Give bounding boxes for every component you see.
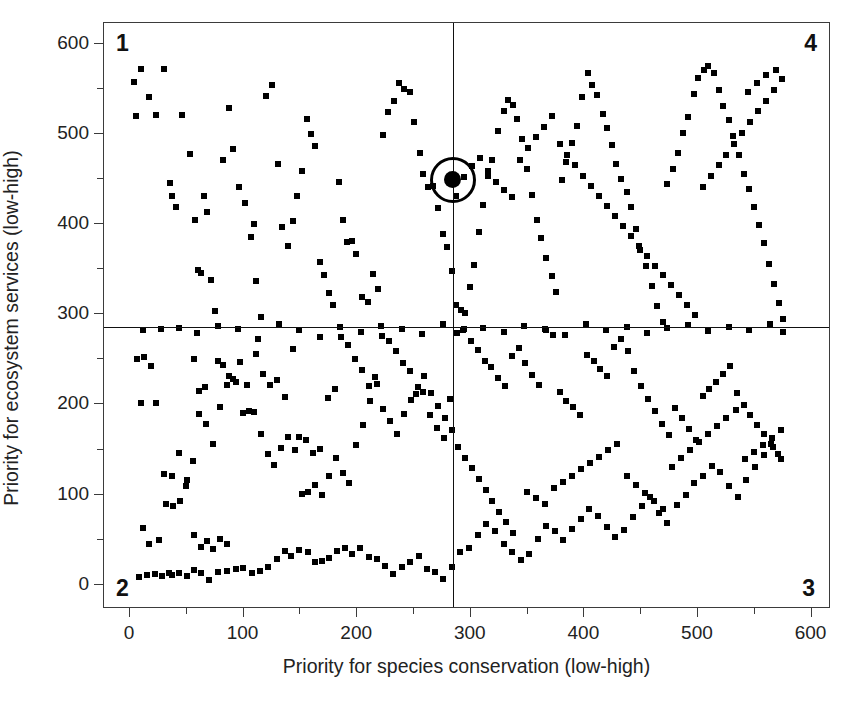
data-point [248, 234, 254, 240]
data-point [664, 520, 670, 526]
data-point [476, 476, 482, 482]
data-point [349, 238, 355, 244]
data-point [516, 345, 522, 351]
data-point [279, 224, 285, 230]
data-point [570, 404, 576, 410]
data-point [563, 398, 569, 404]
data-point [466, 545, 472, 551]
data-point [509, 194, 515, 200]
data-point [396, 80, 402, 86]
data-point [217, 404, 223, 410]
data-point [600, 111, 606, 117]
data-point [342, 545, 348, 551]
data-point [705, 63, 711, 69]
data-point [326, 473, 332, 479]
data-point [652, 408, 658, 414]
data-point [775, 451, 781, 457]
y-axis-title: Priority for ecosystem services (low-hig… [0, 35, 26, 621]
data-point [366, 554, 372, 560]
data-point [518, 557, 524, 563]
data-point [587, 460, 593, 466]
data-point [346, 480, 352, 486]
y-tick-mark [97, 539, 104, 540]
data-point [385, 109, 391, 115]
data-point [754, 422, 760, 428]
y-tick-mark [97, 449, 104, 450]
highlighted-point-marker[interactable] [430, 157, 476, 203]
data-point [742, 456, 748, 462]
y-tick-label: 0 [78, 573, 89, 595]
data-point [536, 382, 542, 388]
data-point [609, 142, 615, 148]
data-point [664, 181, 670, 187]
data-point [572, 162, 578, 168]
data-point [524, 166, 530, 172]
data-point [183, 483, 189, 489]
data-point [743, 477, 749, 483]
data-point [336, 179, 342, 185]
data-point [400, 360, 406, 366]
data-point [260, 371, 266, 377]
data-point [604, 373, 610, 379]
data-point [420, 171, 426, 177]
data-point [691, 91, 697, 97]
data-point [417, 150, 423, 156]
data-point [167, 180, 173, 186]
data-point [435, 403, 441, 409]
data-point [611, 344, 617, 350]
data-point [462, 455, 468, 461]
data-point [550, 332, 556, 338]
data-point [686, 426, 692, 432]
data-point [294, 193, 300, 199]
y-tick-label: 200 [57, 392, 89, 414]
data-point [253, 278, 259, 284]
y-tick-mark [94, 43, 104, 44]
data-point [367, 398, 373, 404]
data-point [552, 528, 558, 534]
data-point [325, 395, 331, 401]
data-point [460, 327, 466, 333]
data-point [543, 523, 549, 529]
data-point [549, 273, 555, 279]
data-point [419, 331, 425, 337]
data-point [716, 87, 722, 93]
data-point [173, 204, 179, 210]
data-point [780, 329, 786, 335]
data-point [399, 564, 405, 570]
x-tick-mark [186, 607, 187, 614]
data-point [604, 125, 610, 131]
x-tick-mark [129, 607, 130, 617]
data-point [660, 506, 666, 512]
data-point [726, 117, 732, 123]
data-point [303, 437, 309, 443]
data-point [612, 213, 618, 219]
data-point [780, 316, 786, 322]
data-point [312, 559, 318, 565]
x-tick-label: 600 [795, 622, 827, 644]
data-point [488, 364, 494, 370]
data-point [633, 226, 639, 232]
data-point [285, 434, 291, 440]
data-point [333, 455, 339, 461]
data-point [382, 563, 388, 569]
data-point [529, 192, 535, 198]
data-point [153, 112, 159, 118]
data-point [577, 412, 583, 418]
plot-area: 1 4 2 3 0100200300400500600 010020030040… [103, 22, 830, 608]
data-point [379, 333, 385, 339]
x-tick-mark [697, 607, 698, 617]
x-tick-mark [299, 607, 300, 614]
data-point [407, 368, 413, 374]
data-point [370, 271, 376, 277]
data-point [595, 513, 601, 519]
data-point [492, 528, 498, 534]
data-point [509, 549, 515, 555]
data-point [756, 222, 762, 228]
data-point [489, 498, 495, 504]
data-point [736, 152, 742, 158]
data-point [187, 151, 193, 157]
data-point [146, 94, 152, 100]
x-tick-mark [527, 607, 528, 614]
data-point [768, 441, 774, 447]
data-point [240, 565, 246, 571]
